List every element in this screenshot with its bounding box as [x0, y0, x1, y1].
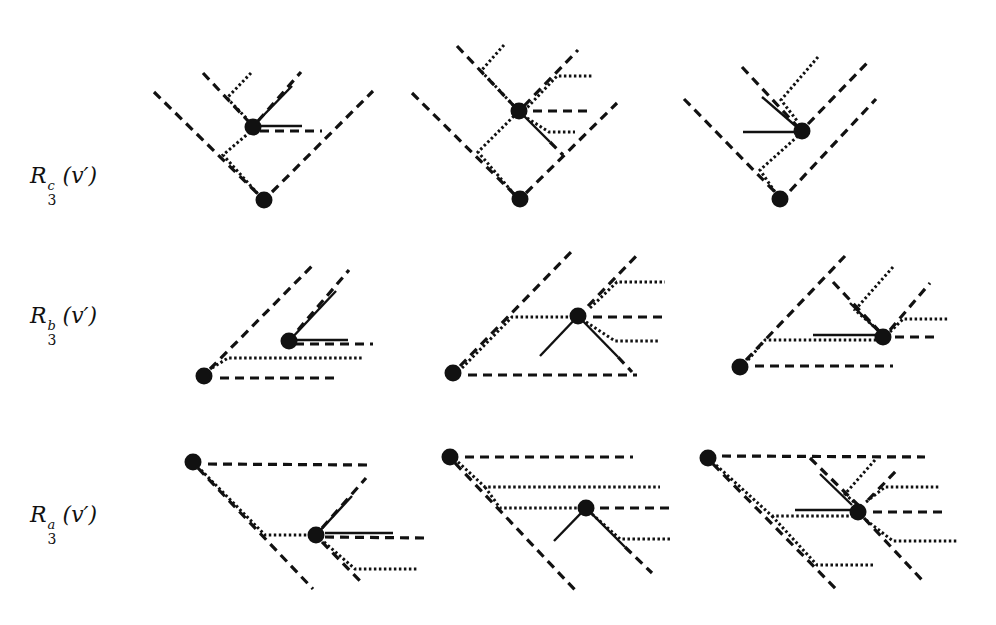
dotted-line [781, 57, 818, 122]
label-argument: (v′) [63, 303, 98, 328]
dashed-line [684, 99, 775, 192]
dashed-line [588, 252, 640, 306]
dashed-line [322, 542, 361, 582]
dotted-line [866, 487, 940, 502]
panel-b1 [196, 266, 374, 385]
dotted-line [748, 340, 880, 360]
vertex-dot [442, 449, 459, 466]
label-superscript: b [48, 319, 56, 332]
dotted-line [223, 132, 258, 194]
dotted-line [227, 98, 248, 120]
dashed-line [298, 270, 349, 330]
panel-c3 [684, 57, 876, 208]
vertex-dot [875, 329, 892, 346]
dashed-line [272, 91, 373, 192]
label-base: R [30, 303, 47, 328]
dotted-line [890, 319, 948, 332]
dashed-line [868, 469, 898, 500]
vertex-dot [245, 119, 262, 136]
dotted-line [481, 45, 514, 106]
dashed-line [325, 537, 424, 538]
vertex-dot [570, 308, 587, 325]
dashed-line [460, 252, 571, 366]
dotted-line [586, 322, 660, 341]
panel-a1 [185, 454, 425, 590]
dotted-line [201, 470, 310, 535]
vertex-dot [308, 527, 325, 544]
diagram-canvas [0, 0, 996, 625]
dashed-line [618, 357, 632, 372]
dashed-line [790, 99, 876, 191]
dashed-line [550, 142, 563, 155]
label-argument: (v′) [63, 163, 98, 188]
vertex-dot [196, 368, 213, 385]
panel-b2 [445, 252, 668, 382]
vertex-dot [281, 333, 298, 350]
label-superscript: a [48, 518, 56, 531]
solid-line [258, 86, 292, 121]
dotted-line [458, 462, 660, 487]
vertex-dot [850, 504, 867, 521]
dotted-line [855, 267, 893, 330]
dashed-line [808, 62, 868, 124]
label-subscript: 3 [48, 193, 57, 207]
label-subscript: 3 [48, 333, 57, 347]
label-superscript: c [48, 179, 55, 192]
panel-a3 [700, 450, 959, 591]
row-label-b: Rb3(v′) [30, 305, 97, 327]
dashed-line [208, 464, 370, 465]
dotted-line [485, 487, 578, 508]
solid-line [578, 316, 618, 357]
label-argument: (v′) [63, 502, 98, 527]
dashed-line [625, 547, 652, 573]
dashed-line [455, 463, 575, 590]
dotted-line [866, 520, 958, 541]
dotted-line [478, 116, 514, 194]
label-subscript: 3 [48, 532, 57, 546]
dotted-line [590, 282, 665, 308]
panel-c1 [154, 72, 373, 209]
row-label-a: Ra3(v′) [30, 504, 97, 526]
dotted-line [227, 73, 251, 98]
vertex-dot [445, 365, 462, 382]
panel-b3 [732, 256, 949, 376]
vertex-dot [512, 191, 529, 208]
dashed-line [890, 283, 930, 330]
vertex-dot [511, 103, 528, 120]
dotted-line [760, 136, 798, 192]
panel-a2 [442, 449, 671, 591]
vertex-dot [256, 192, 273, 209]
solid-line [762, 97, 798, 128]
dashed-line [412, 93, 514, 194]
dashed-line [713, 464, 837, 590]
solid-line [289, 291, 336, 341]
dashed-line [722, 456, 925, 457]
dashed-line [524, 50, 578, 106]
vertex-dot [732, 359, 749, 376]
vertex-dot [772, 191, 789, 208]
label-base: R [30, 163, 47, 188]
label-base: R [30, 502, 47, 527]
vertex-dot [700, 450, 717, 467]
dotted-line [212, 358, 362, 368]
dashed-line [742, 67, 797, 126]
dashed-line [210, 266, 312, 369]
vertex-dot [185, 454, 202, 471]
diagram-panels [154, 45, 958, 590]
dashed-line [526, 103, 617, 193]
dotted-line [324, 542, 418, 569]
dashed-line [864, 518, 922, 580]
vertex-dot [578, 500, 595, 517]
vertex-dot [794, 123, 811, 140]
row-label-c: Rc3(v′) [30, 165, 97, 187]
panel-c2 [412, 45, 617, 208]
